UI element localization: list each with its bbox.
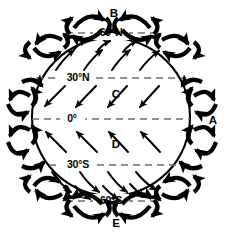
cell-label-b: B: [110, 7, 118, 19]
cell-arc: [180, 162, 202, 168]
cell-label-c: C: [112, 88, 120, 100]
cell-arc: [188, 88, 192, 106]
latitude-label-equator: 0°: [67, 112, 77, 124]
cell-label-d: D: [112, 138, 120, 150]
cell-arc: [164, 48, 190, 56]
cell-arc: [196, 142, 216, 154]
cell-arc: [182, 80, 202, 86]
globe-svg: 60°N 30°N 0° 30°S 60°S C: [0, 0, 234, 238]
cell-arc: [194, 176, 199, 192]
cell-arc: [36, 190, 62, 198]
circulation-diagram: 60°N 30°N 0° 30°S 60°S C: [0, 0, 234, 238]
latitude-label-60s: 60°S: [100, 194, 122, 206]
cell-arc: [66, 18, 72, 34]
cell-arc: [8, 142, 28, 154]
cell-arc: [32, 126, 36, 144]
cell-arc: [152, 200, 158, 216]
cell-arc: [162, 190, 188, 198]
latitude-label-30n: 30°N: [67, 71, 90, 83]
cell-arc: [194, 127, 214, 136]
cell-arc: [32, 88, 36, 106]
cell-arc: [22, 80, 42, 86]
cell-arc: [8, 104, 28, 115]
cell-arc: [10, 92, 30, 100]
convection-cell-southeast: [156, 176, 199, 200]
cell-arc: [34, 48, 60, 56]
cell-arc: [64, 34, 68, 48]
globe-outline: [32, 38, 190, 196]
latitude-label-30s: 30°S: [67, 158, 89, 170]
cell-label-e: E: [112, 217, 120, 229]
cell-arc: [194, 92, 214, 100]
cell-arc: [152, 18, 158, 34]
cell-arc: [162, 36, 188, 44]
cell-arc: [10, 127, 30, 136]
cell-arc: [188, 126, 192, 144]
cell-arc: [22, 162, 44, 168]
cell-arc: [25, 176, 30, 192]
cell-arc: [66, 200, 72, 216]
cell-arc: [164, 178, 190, 186]
cell-arc: [156, 34, 160, 48]
cell-arc: [34, 178, 60, 186]
convection-cell-northeast: [156, 34, 199, 58]
cell-label-a: A: [209, 114, 217, 126]
cell-arc: [64, 186, 68, 200]
cell-arc: [156, 186, 160, 200]
cell-arc: [194, 42, 199, 58]
cell-arc: [36, 36, 62, 44]
cell-arc: [25, 42, 30, 58]
